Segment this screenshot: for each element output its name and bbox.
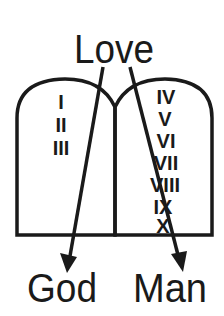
numeral-6: VI — [157, 130, 176, 152]
numeral-1: I — [58, 91, 64, 113]
love-tablets-diagram: Love I II III IV V VI VII VIII IX X God … — [0, 0, 224, 316]
left-tablet-numerals: I II III — [53, 91, 70, 159]
tablets — [17, 79, 212, 235]
god-label: God — [27, 266, 97, 310]
numeral-2: II — [55, 114, 66, 136]
man-label: Man — [133, 266, 207, 310]
numeral-8: VIII — [150, 174, 180, 196]
arrow-love-to-god — [60, 67, 103, 273]
numeral-5: V — [158, 108, 172, 130]
love-label: Love — [74, 27, 154, 71]
numeral-3: III — [53, 137, 70, 159]
numeral-4: IV — [157, 86, 177, 108]
